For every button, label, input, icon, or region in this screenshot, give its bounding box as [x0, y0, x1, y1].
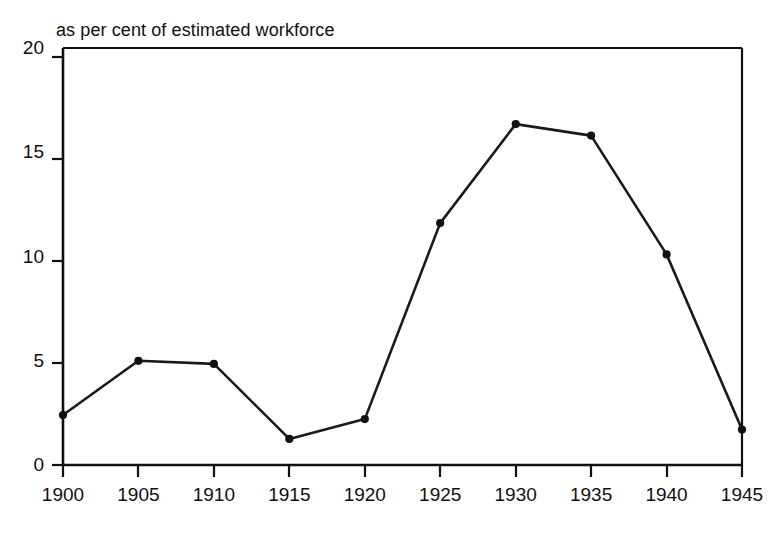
x-axis-tick-label: 1910: [193, 484, 235, 506]
x-axis-tick-label: 1930: [495, 484, 537, 506]
x-axis-tick-label: 1920: [344, 484, 386, 506]
x-axis-tick-label: 1915: [268, 484, 310, 506]
x-axis-tick-label: 1905: [117, 484, 159, 506]
x-axis-tick-label: 1900: [42, 484, 84, 506]
x-axis-tick-label: 1925: [419, 484, 461, 506]
x-axis-tick-label: 1940: [645, 484, 687, 506]
chart-container: as per cent of estimated workforce: [0, 0, 783, 533]
x-axis-tick-label: 1945: [721, 484, 763, 506]
x-axis-labels: 1900190519101915192019251930193519401945: [0, 0, 783, 533]
x-axis-tick-label: 1935: [570, 484, 612, 506]
